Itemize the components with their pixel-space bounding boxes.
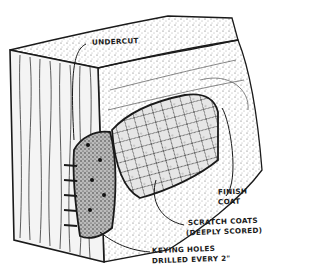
undercut-patch [73, 132, 115, 238]
finish-coat-label-line2: COAT [218, 198, 241, 207]
finish-coat-label-line1: FINISH [218, 187, 248, 197]
undercut-label: UNDERCUT [92, 37, 139, 47]
